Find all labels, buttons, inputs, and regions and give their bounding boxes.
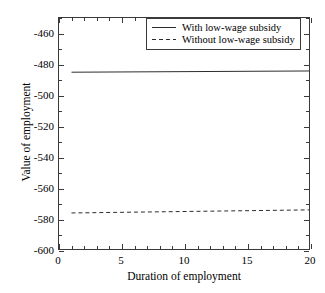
y-axis-tick-major	[59, 251, 64, 252]
x-axis-tick-major	[248, 244, 249, 249]
y-axis-tick-major	[59, 158, 64, 159]
x-axis-tick-minor	[72, 246, 73, 249]
x-axis-tick-minor	[147, 246, 148, 249]
y-axis-tick-major-right	[304, 251, 309, 252]
y-axis-tick-major	[59, 34, 64, 35]
x-axis-tick-minor	[223, 246, 224, 249]
y-axis-tick-minor-right	[306, 111, 309, 112]
y-axis-tick-minor	[59, 111, 62, 112]
y-axis-tick-minor	[59, 173, 62, 174]
series-line-without-subsidy	[72, 210, 310, 213]
x-axis-tick-major-top	[59, 18, 60, 23]
y-axis-tick-minor	[59, 142, 62, 143]
legend-label-without-subsidy: Without low-wage subsidy	[182, 34, 295, 45]
x-axis-tick-minor	[160, 246, 161, 249]
y-axis-tick-minor	[59, 204, 62, 205]
x-axis-tick-minor-top	[97, 18, 98, 21]
series-line-with-subsidy	[72, 71, 310, 72]
y-axis-tick-minor-right	[306, 49, 309, 50]
x-axis-tick-minor	[298, 246, 299, 249]
x-axis-tick-minor	[273, 246, 274, 249]
x-axis-tick-minor	[235, 246, 236, 249]
x-axis-tick-minor	[198, 246, 199, 249]
x-axis-tick-major	[311, 244, 312, 249]
x-axis-title: Duration of employment	[58, 270, 310, 282]
x-axis-tick-label: 20	[290, 255, 325, 266]
legend-label-with-subsidy: With low-wage subsidy	[182, 22, 281, 33]
x-axis-tick-label: 10	[164, 255, 204, 266]
y-axis-tick-label: -460	[4, 28, 54, 39]
y-axis-tick-major-right	[304, 65, 309, 66]
x-axis-tick-major	[122, 244, 123, 249]
data-curves-layer	[59, 18, 309, 249]
y-axis-tick-minor-right	[306, 18, 309, 19]
x-axis-tick-minor	[261, 246, 262, 249]
x-axis-tick-major	[59, 244, 60, 249]
y-axis-tick-major	[59, 65, 64, 66]
x-axis-tick-label: 0	[38, 255, 78, 266]
legend-dashed-line-icon	[151, 34, 177, 45]
y-axis-tick-minor-right	[306, 142, 309, 143]
x-axis-tick-minor-top	[135, 18, 136, 21]
x-axis-tick-minor	[286, 246, 287, 249]
x-axis-tick-minor-top	[84, 18, 85, 21]
y-axis-tick-major-right	[304, 158, 309, 159]
y-axis-tick-major	[59, 96, 64, 97]
x-axis-tick-major-top	[122, 18, 123, 23]
plot-area	[58, 17, 310, 250]
legend-item-with-subsidy: With low-wage subsidy	[151, 22, 296, 33]
x-axis-tick-major	[185, 244, 186, 249]
x-axis-tick-minor	[84, 246, 85, 249]
y-axis-tick-minor-right	[306, 173, 309, 174]
y-axis-tick-major	[59, 127, 64, 128]
x-axis-tick-minor-top	[109, 18, 110, 21]
x-axis-tick-minor	[135, 246, 136, 249]
y-axis-tick-major-right	[304, 96, 309, 97]
x-axis-tick-minor	[172, 246, 173, 249]
y-axis-tick-minor	[59, 235, 62, 236]
y-axis-tick-major	[59, 220, 64, 221]
y-axis-tick-major-right	[304, 189, 309, 190]
legend-item-without-subsidy: Without low-wage subsidy	[151, 34, 296, 45]
chart-figure: -460-480-500-520-540-560-580-60005101520…	[0, 0, 325, 293]
y-axis-tick-minor-right	[306, 235, 309, 236]
x-axis-tick-minor	[109, 246, 110, 249]
y-axis-tick-major-right	[304, 220, 309, 221]
y-axis-tick-minor-right	[306, 80, 309, 81]
y-axis-tick-minor	[59, 80, 62, 81]
y-axis-tick-major	[59, 189, 64, 190]
y-axis-tick-minor	[59, 49, 62, 50]
y-axis-title: Value of employment	[20, 42, 32, 222]
x-axis-tick-minor	[210, 246, 211, 249]
y-axis-tick-major-right	[304, 127, 309, 128]
chart-legend: With low-wage subsidy Without low-wage s…	[146, 18, 301, 50]
x-axis-tick-label: 15	[227, 255, 267, 266]
x-axis-tick-major-top	[311, 18, 312, 23]
y-axis-tick-major-right	[304, 34, 309, 35]
x-axis-tick-minor	[97, 246, 98, 249]
x-axis-tick-minor-top	[72, 18, 73, 21]
x-axis-tick-label: 5	[101, 255, 141, 266]
legend-solid-line-icon	[151, 22, 177, 33]
y-axis-tick-minor-right	[306, 204, 309, 205]
